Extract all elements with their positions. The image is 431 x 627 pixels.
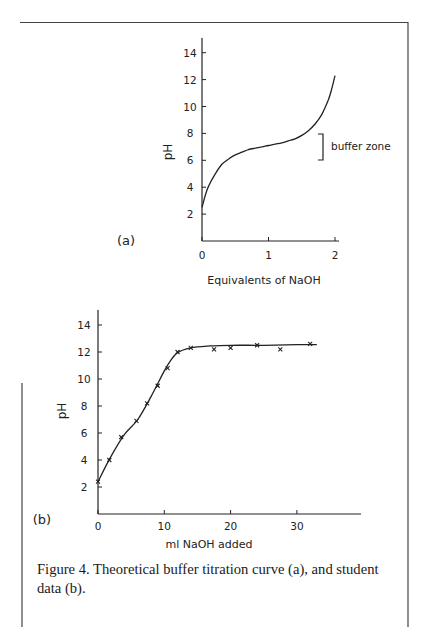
chart-a-y-tick-label: 8 xyxy=(187,127,194,139)
chart-a-axes xyxy=(202,38,339,241)
chart-b-y-label: pH xyxy=(55,403,69,420)
chart-a-y-tick-label: 4 xyxy=(187,181,194,193)
data-point-marker xyxy=(308,342,312,346)
chart-b-axes xyxy=(98,310,361,514)
chart-a-y-label: pH xyxy=(161,144,175,161)
chart-a-x-tick-label: 1 xyxy=(265,249,272,261)
chart-b-x-ticks: 0102030 xyxy=(95,510,304,532)
chart-a-y-tick-label: 14 xyxy=(183,47,197,59)
chart-b-y-tick-label: 4 xyxy=(81,454,88,466)
chart-a-curve xyxy=(202,76,335,208)
chart-b-fitted-curve xyxy=(98,345,317,482)
chart-b-y-tick-label: 8 xyxy=(81,400,88,412)
chart-a-y-tick-label: 6 xyxy=(187,154,194,166)
data-point-marker xyxy=(212,347,216,351)
chart-b-x-tick-label: 30 xyxy=(290,520,303,532)
chart-a-panel-label: (a) xyxy=(117,233,135,248)
figure-svg: 2468101214 012 pH Equivalents of NaOH (a… xyxy=(0,0,431,627)
chart-b-x-label: ml NaOH added xyxy=(165,538,252,551)
data-point-marker xyxy=(278,347,282,351)
chart-b-x-tick-label: 10 xyxy=(158,520,171,532)
chart-b: 2468101214 0102030 pH ml NaOH added (b) xyxy=(33,310,361,551)
chart-b-y-tick-label: 6 xyxy=(81,427,88,439)
chart-b-x-tick-label: 0 xyxy=(95,520,102,532)
buffer-zone-label: buffer zone xyxy=(331,140,391,152)
chart-a-x-tick-label: 0 xyxy=(199,249,206,261)
chart-a-x-tick-label: 2 xyxy=(332,249,339,261)
data-point-marker xyxy=(229,346,233,350)
chart-b-panel-label: (b) xyxy=(33,512,51,527)
chart-a-y-tick-label: 10 xyxy=(183,101,196,113)
chart-b-y-tick-label: 12 xyxy=(77,346,90,358)
figure-page: 2468101214 012 pH Equivalents of NaOH (a… xyxy=(0,0,431,627)
buffer-zone-bracket xyxy=(318,134,323,160)
chart-b-y-tick-label: 10 xyxy=(77,373,90,385)
chart-a: 2468101214 012 pH Equivalents of NaOH (a… xyxy=(117,38,391,287)
chart-a-x-label: Equivalents of NaOH xyxy=(207,274,321,287)
chart-b-y-tick-label: 2 xyxy=(81,481,88,493)
figure-caption: Figure 4. Theoretical buffer titration c… xyxy=(37,560,399,598)
chart-b-x-tick-label: 20 xyxy=(224,520,237,532)
chart-a-y-tick-label: 2 xyxy=(187,208,194,220)
chart-b-y-tick-label: 14 xyxy=(77,319,91,331)
chart-b-data-points xyxy=(96,342,312,484)
chart-a-y-tick-label: 12 xyxy=(183,74,196,86)
